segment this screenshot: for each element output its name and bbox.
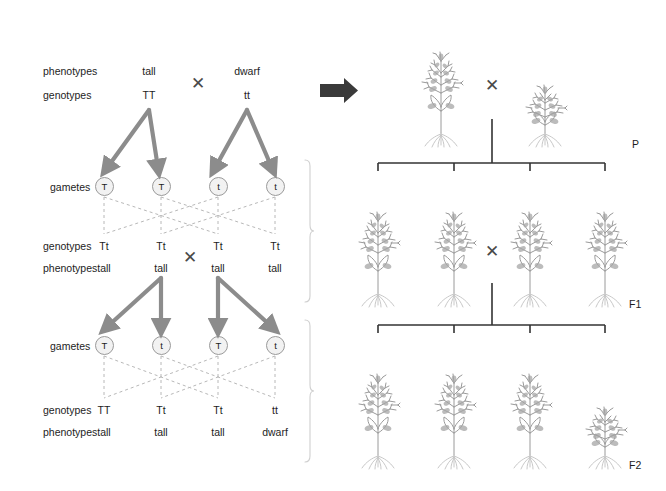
plant-f2-1: [359, 374, 400, 469]
vector-layer: [0, 0, 666, 491]
brace-f2: [305, 320, 314, 462]
plant-f2-2: [435, 374, 476, 469]
fertilization-lines-1: [104, 197, 275, 234]
plant-p-dwarf: [526, 85, 567, 147]
figure-canvas: phenotypes genotypes gametes genotypes p…: [0, 0, 666, 491]
plant-f1-2: [435, 212, 476, 307]
meiosis-arrows-parent-1: [107, 110, 158, 168]
pedigree-bracket-f1: [378, 163, 605, 171]
meiosis-arrows-parent-2: [215, 110, 272, 168]
pedigree-bracket-f2: [378, 325, 605, 333]
brace-f1: [305, 160, 314, 302]
plant-f1-3: [511, 212, 552, 307]
plant-f1-4: [586, 212, 627, 307]
meiosis-arrows-f1-2: [218, 278, 272, 327]
plant-f2-3: [511, 374, 552, 469]
transition-arrow-icon: [320, 78, 358, 103]
fertilization-lines-2: [104, 356, 275, 398]
plant-f2-4-dwarf: [586, 407, 627, 469]
plant-f1-1: [359, 212, 400, 307]
meiosis-arrows-f1-1: [107, 278, 161, 327]
plant-p-tall: [422, 52, 463, 147]
